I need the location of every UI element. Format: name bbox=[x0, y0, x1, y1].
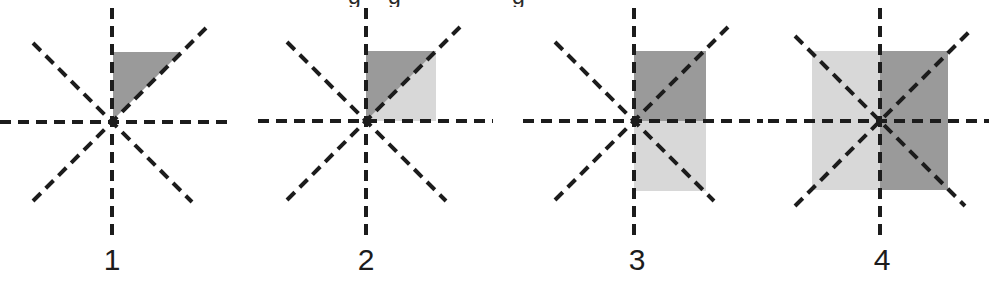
figure-3-diagram bbox=[515, 0, 765, 240]
figure-3-caption: 3 bbox=[607, 243, 667, 277]
axes-group bbox=[258, 8, 493, 235]
figure-2-caption: 2 bbox=[336, 243, 396, 277]
figure-4: 4 bbox=[760, 0, 989, 284]
axes-group bbox=[768, 8, 989, 235]
figure-4-diagram bbox=[760, 0, 989, 240]
axes-group bbox=[0, 8, 233, 236]
figure-sheet: g g g 1 bbox=[0, 0, 989, 284]
figure-1: 1 bbox=[0, 0, 240, 284]
figure-2: 2 bbox=[250, 0, 500, 284]
figure-1-caption: 1 bbox=[82, 243, 142, 277]
figure-4-caption: 4 bbox=[852, 243, 912, 277]
figure-1-diagram bbox=[0, 0, 240, 240]
figure-2-diagram bbox=[250, 0, 500, 240]
figure-3: 3 bbox=[515, 0, 765, 284]
